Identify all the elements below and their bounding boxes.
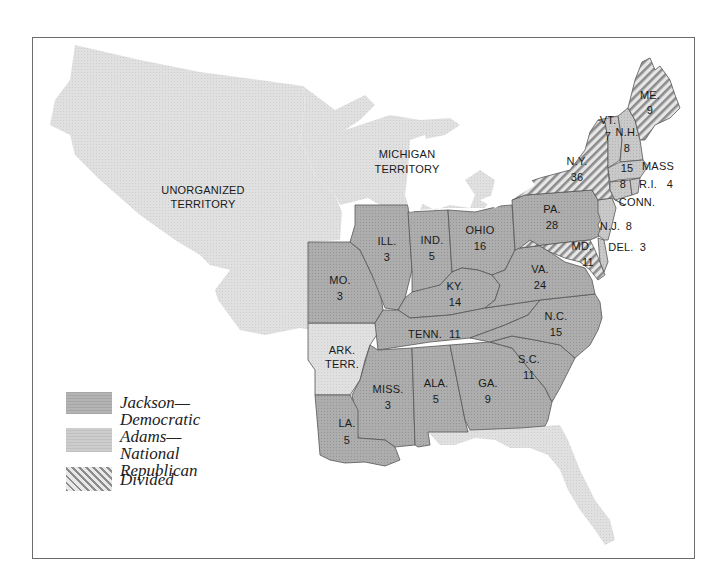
- label-south-carolina: S.C.: [518, 353, 540, 365]
- label-mississippi: MISS.: [373, 383, 404, 395]
- votes-indiana: 5: [429, 250, 435, 262]
- votes-kentucky: 14: [449, 296, 462, 308]
- label-delaware: DEL.: [608, 241, 633, 253]
- label-unorganized-territory: UNORGANIZED: [161, 184, 244, 196]
- votes-maine: 9: [647, 104, 653, 116]
- label-maryland: MD.: [572, 240, 593, 252]
- label-arkansas-territory-2: TERR.: [325, 358, 359, 370]
- label-kentucky: KY.: [447, 280, 464, 292]
- label-maine: ME.: [640, 89, 660, 101]
- votes-tennessee: 11: [449, 328, 461, 340]
- label-connecticut: CONN.: [619, 196, 655, 208]
- label-new-york: N.Y.: [567, 155, 588, 167]
- label-new-hampshire: N.H.: [616, 126, 639, 138]
- label-michigan-territory: MICHIGAN: [379, 148, 436, 160]
- votes-illinois: 3: [384, 251, 390, 263]
- legend-item-divided: Divided: [66, 467, 174, 491]
- label-georgia: GA.: [478, 377, 498, 389]
- label-virginia: VA.: [531, 263, 549, 275]
- votes-new-jersey: 8: [626, 220, 632, 232]
- votes-north-carolina: 15: [550, 326, 563, 338]
- label-indiana: IND.: [421, 234, 444, 246]
- label-massachusetts: MASS: [642, 160, 674, 172]
- label-pennsylvania: PA.: [543, 203, 561, 215]
- label-louisiana: LA.: [338, 417, 355, 429]
- legend-label-jackson: Jackson—Democratic: [120, 394, 200, 428]
- adams-swatch: [66, 428, 112, 452]
- florida-territory-region: [428, 425, 615, 545]
- votes-massachusetts: 15: [621, 162, 634, 174]
- votes-alabama: 5: [433, 393, 439, 405]
- votes-delaware: 3: [640, 241, 646, 253]
- votes-maryland: 11: [582, 256, 594, 268]
- label-alabama: ALA.: [424, 377, 449, 389]
- label-ohio: OHIO: [466, 224, 495, 236]
- legend-item-jackson: Jackson—Democratic: [66, 392, 200, 428]
- votes-virginia: 24: [534, 279, 547, 291]
- votes-south-carolina: 11: [523, 369, 535, 381]
- label-tennessee: TENN.: [408, 328, 442, 340]
- label-missouri: MO.: [329, 274, 350, 286]
- votes-vermont: 7: [605, 130, 611, 142]
- votes-new-hampshire: 8: [624, 142, 630, 154]
- votes-mississippi: 3: [385, 399, 391, 411]
- votes-rhode-island: 4: [667, 178, 673, 190]
- label-illinois: ILL.: [377, 235, 396, 247]
- votes-connecticut: 8: [620, 178, 626, 190]
- jackson-swatch: [66, 392, 112, 414]
- votes-louisiana: 5: [344, 434, 350, 446]
- divided-swatch: [66, 467, 112, 491]
- votes-new-york: 36: [571, 171, 584, 183]
- label-unorganized-territory-2: TERRITORY: [171, 198, 236, 210]
- label-new-jersey: N.J.: [600, 220, 620, 232]
- label-michigan-territory-2: TERRITORY: [375, 163, 440, 175]
- label-vermont: VT.: [600, 114, 617, 126]
- label-arkansas-territory: ARK.: [329, 344, 355, 356]
- votes-pennsylvania: 28: [546, 219, 559, 231]
- votes-ohio: 16: [474, 240, 487, 252]
- legend-label-divided: Divided: [120, 471, 174, 488]
- election-map: UNORGANIZED TERRITORY MICHIGAN TERRITORY…: [0, 0, 719, 588]
- state-new-jersey: [598, 198, 616, 240]
- label-rhode-island: R.I.: [639, 178, 657, 190]
- votes-missouri: 3: [337, 290, 343, 302]
- votes-georgia: 9: [485, 393, 491, 405]
- legend-label-adams: Adams—: [120, 428, 197, 445]
- label-north-carolina: N.C.: [545, 310, 568, 322]
